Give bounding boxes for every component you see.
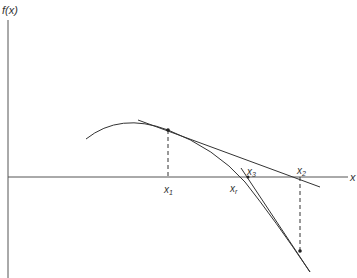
y-axis-label: f(x) [2,4,18,16]
newton-method-diagram: f(x) x x1 xr x3 x2 [0,0,357,278]
label-x1: x1 [163,184,173,196]
point-x2 [298,249,302,253]
x-axis-label: x [349,171,356,183]
function-curve [86,123,310,272]
point-x1 [166,128,170,132]
label-xr: xr [229,183,238,195]
label-x2: x2 [296,165,306,177]
diagram-canvas: f(x) x x1 xr x3 x2 [0,0,357,278]
label-x3: x3 [246,166,256,178]
